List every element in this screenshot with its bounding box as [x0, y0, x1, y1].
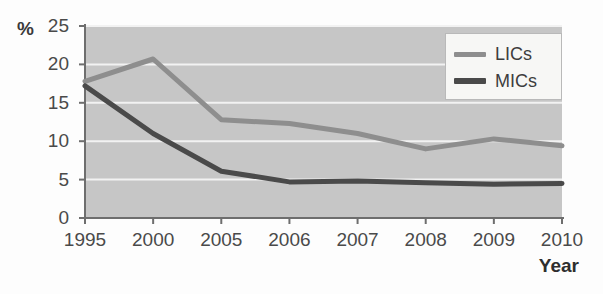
y-tick-label: 5: [33, 170, 69, 189]
x-tick-label: 2008: [405, 230, 447, 249]
y-tick-label: 20: [33, 54, 69, 73]
legend-item-lics: LICs: [454, 42, 532, 66]
chart-container: % 0510152025 199520002005200620072008200…: [0, 0, 603, 294]
x-tick-label: 2000: [132, 230, 174, 249]
x-axis-title: Year: [539, 255, 579, 277]
legend-swatch-mics: [454, 78, 486, 84]
x-tick-label: 2005: [200, 230, 242, 249]
y-tick-label: 15: [33, 93, 69, 112]
y-tick-label: 25: [33, 16, 69, 35]
chart-legend: LICs MICs: [445, 33, 562, 100]
x-tick-label: 2010: [541, 230, 583, 249]
x-tick-label: 2006: [268, 230, 310, 249]
legend-label-mics: MICs: [495, 72, 537, 90]
legend-swatch-lics: [454, 52, 486, 57]
x-tick-label: 1995: [64, 230, 106, 249]
x-tick-label: 2007: [336, 230, 378, 249]
legend-label-lics: LICs: [495, 45, 532, 63]
x-tick-label: 2009: [473, 230, 515, 249]
legend-item-mics: MICs: [454, 69, 537, 93]
y-tick-label: 0: [33, 208, 69, 227]
y-tick-label: 10: [33, 131, 69, 150]
